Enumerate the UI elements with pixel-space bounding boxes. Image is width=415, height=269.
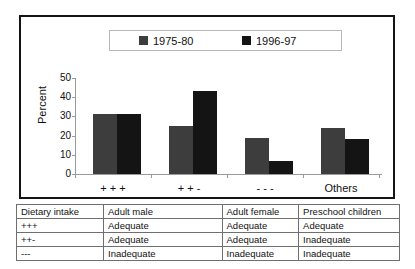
table-row-1-cell-2: Adequate [222, 233, 299, 247]
table-row-1-cell-3: Inadequate [299, 233, 400, 247]
x-axis-label-2: - - - [227, 182, 303, 194]
bar-group-bars [93, 78, 141, 174]
y-tick-label-40: 40 [41, 93, 71, 101]
table-header-cell-3: Preschool children [299, 205, 400, 219]
plot-area [75, 78, 380, 174]
legend-label-series-1: 1996-97 [256, 35, 296, 47]
y-tick-mark-50 [72, 78, 75, 79]
y-tick-mark-40 [72, 97, 75, 98]
y-tick-mark-30 [72, 116, 75, 117]
y-tick-label-10: 10 [41, 151, 71, 159]
bar-Others-series-0 [321, 128, 345, 174]
legend-swatch-series-1 [242, 36, 251, 45]
x-axis-label-3: Others [303, 182, 379, 194]
table-header-cell-0: Dietary intake [17, 205, 104, 219]
x-tick-mark-end [379, 174, 380, 178]
chart-panel: 1975-80 1996-97 Percent 50403020100 + + … [19, 15, 395, 199]
table-row-2-cell-2: Inadequate [222, 247, 299, 261]
x-axis-line [75, 174, 382, 175]
bar-++--series-1 [193, 91, 217, 174]
x-axis-label-0: + + + [75, 182, 151, 194]
bar-group-3 [303, 78, 379, 174]
y-axis-tick-labels: 50403020100 [41, 78, 71, 174]
table-row-2-cell-3: Inadequate [299, 247, 400, 261]
y-tick-label-50: 50 [41, 74, 71, 82]
bar-+++-series-0 [93, 114, 117, 174]
table-row-2-cell-1: Inadequate [104, 247, 222, 261]
bar-+++-series-1 [117, 114, 141, 174]
y-tick-label-30: 30 [41, 112, 71, 120]
bar-group-2 [227, 78, 303, 174]
y-tick-mark-20 [72, 136, 75, 137]
bar-++--series-0 [169, 126, 193, 174]
bar-group-bars [169, 78, 217, 174]
bar-group-bars [321, 78, 369, 174]
table-row-2-cell-0: --- [17, 247, 104, 261]
bar-group-1 [151, 78, 227, 174]
bar-group-0 [75, 78, 151, 174]
y-tick-label-0: 0 [41, 170, 71, 178]
dietary-intake-table: Dietary intakeAdult maleAdult femalePres… [16, 204, 400, 261]
bar-----series-1 [269, 161, 293, 174]
table-row: ---InadequateInadequateInadequate [17, 247, 400, 261]
y-tick-label-20: 20 [41, 132, 71, 140]
legend-entry-1996-97: 1996-97 [242, 35, 296, 47]
x-axis-label-1: + + - [151, 182, 227, 194]
y-tick-mark-10 [72, 155, 75, 156]
bar-group-bars [245, 78, 293, 174]
table-row: ++-AdequateAdequateInadequate [17, 233, 400, 247]
x-tick-mark-1 [151, 174, 152, 178]
table-header-row: Dietary intakeAdult maleAdult femalePres… [17, 205, 400, 219]
table-header-cell-1: Adult male [104, 205, 222, 219]
table-row-1-cell-0: ++- [17, 233, 104, 247]
bar-Others-series-1 [345, 139, 369, 174]
table-row: +++AdequateAdequateAdequate [17, 219, 400, 233]
table-body: Dietary intakeAdult maleAdult femalePres… [17, 205, 400, 261]
table-header-cell-2: Adult female [222, 205, 299, 219]
x-tick-mark-2 [227, 174, 228, 178]
legend-swatch-series-0 [139, 36, 148, 45]
table-row-0-cell-1: Adequate [104, 219, 222, 233]
table-row-0-cell-0: +++ [17, 219, 104, 233]
table-row-0-cell-2: Adequate [222, 219, 299, 233]
legend-label-series-0: 1975-80 [153, 35, 193, 47]
bar-----series-0 [245, 138, 269, 174]
x-tick-mark-0 [75, 174, 76, 178]
x-tick-mark-3 [303, 174, 304, 178]
table-row-0-cell-3: Adequate [299, 219, 400, 233]
table-row-1-cell-1: Adequate [104, 233, 222, 247]
legend-entry-1975-80: 1975-80 [139, 35, 193, 47]
chart-legend: 1975-80 1996-97 [109, 30, 342, 51]
